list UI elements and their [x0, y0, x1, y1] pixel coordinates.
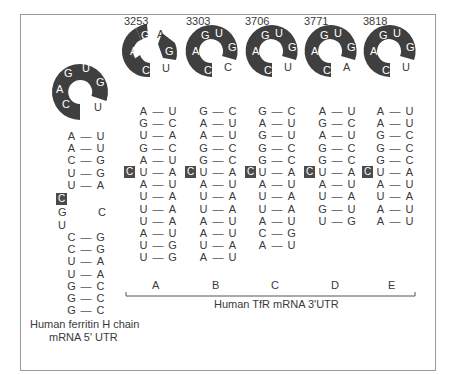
base-pair: U—A	[139, 190, 177, 202]
base-pair: C—G	[67, 243, 105, 255]
base-pair: U—A	[67, 255, 105, 267]
base-pair: A—U	[376, 203, 414, 215]
base-pair: U—A	[199, 190, 237, 202]
base-pair: A—U	[376, 215, 414, 227]
base-pair: A—U	[139, 105, 177, 117]
base-pair: A—U	[318, 129, 356, 141]
base-pair: A—U	[376, 117, 414, 129]
base-pair: A—U	[67, 130, 105, 142]
tfr-label-b: B	[212, 279, 219, 291]
base-pair: G—C	[199, 154, 237, 166]
base-pair: A—U	[258, 178, 296, 190]
base-pair: G—U	[318, 203, 356, 215]
tfr-a-loop-base: A	[130, 45, 137, 57]
loop-base: G	[228, 41, 237, 53]
tfr-a-bulge-c: C	[124, 166, 135, 178]
base-pair: G—C	[376, 154, 414, 166]
base-pair: C—G	[67, 154, 105, 166]
base-pair: U—A	[199, 166, 237, 178]
ferritin-loop-base: G	[64, 67, 73, 79]
base-pair: G—C	[318, 154, 356, 166]
ferritin-label-line1: Human ferritin H chain	[30, 318, 139, 330]
base-pair: G—C	[199, 142, 237, 154]
tfr-label-e: E	[388, 279, 395, 291]
base-pair: G—C	[67, 304, 105, 316]
base-pair: U—A	[139, 166, 177, 178]
base-pair: U—A	[67, 268, 105, 280]
tfr-a-loop-base: G	[165, 45, 174, 57]
ferritin-interior-right: C	[98, 206, 106, 218]
loop-base: A	[252, 45, 259, 57]
tfr-group-label: Human TfR mRNA 3'UTR	[214, 298, 339, 310]
base-pair: U—A	[318, 190, 356, 202]
base-pair: G—C	[67, 292, 105, 304]
loop-base: U	[275, 27, 283, 39]
base-pair: A—U	[318, 178, 356, 190]
base-pair: U—A	[258, 203, 296, 215]
base-pair: A—U	[199, 129, 237, 141]
loop-base: U	[215, 27, 223, 39]
tfr-c-bulge-c: C	[245, 166, 256, 178]
base-pair: U—A	[258, 166, 296, 178]
base-pair: G—C	[258, 142, 296, 154]
base-pair: U—A	[258, 190, 296, 202]
loop-outside-base: U	[402, 61, 410, 73]
base-pair: G—C	[376, 129, 414, 141]
base-pair: U—A	[376, 190, 414, 202]
loop-base: A	[192, 45, 199, 57]
ferritin-bulge-c: C	[56, 193, 67, 205]
tfr-b-position: 3303	[186, 15, 210, 27]
tfr-c-position: 3706	[245, 15, 269, 27]
tfr-c-stem: G—C A—U G—U G—C G—C U—A A—U U—A U—A A—U …	[258, 105, 296, 251]
ferritin-lower-stem: C—G C—G U—A U—A G—C G—C G—C	[67, 231, 105, 316]
base-pair: U—A	[139, 215, 177, 227]
loop-base: U	[334, 27, 342, 39]
ferritin-loop-base: G	[96, 76, 105, 88]
base-pair: A—U	[199, 227, 237, 239]
base-pair: G—U	[258, 129, 296, 141]
tfr-a-loop-base: C	[142, 64, 150, 76]
base-pair: A—U	[67, 142, 105, 154]
tfr-b-bulge-c: C	[185, 166, 196, 178]
tfr-a-stem: A—U G—C U—A G—C A—U U—A A—U U—A U—A U—A …	[139, 105, 177, 264]
ferritin-interior-left: G	[58, 206, 67, 218]
base-pair: A—U	[199, 251, 237, 263]
base-pair: G—C	[139, 117, 177, 129]
base-pair: G—C	[258, 154, 296, 166]
base-pair: A—U	[258, 215, 296, 227]
base-pair: A—U	[199, 215, 237, 227]
tfr-bracket	[126, 292, 415, 296]
base-pair: U—A	[376, 166, 414, 178]
base-pair: A—U	[376, 178, 414, 190]
tfr-e-stem: A—U A—U G—C G—C G—C U—A A—U U—A A—U A—U	[376, 105, 414, 227]
loop-base: G	[406, 41, 415, 53]
tfr-a-position: 3253	[124, 15, 148, 27]
base-pair: A—U	[139, 154, 177, 166]
loop-base: A	[311, 45, 318, 57]
loop-base: C	[264, 64, 272, 76]
loop-base: G	[201, 29, 210, 41]
ferritin-upper-stem: A—U A—U C—G U—G U—A	[67, 130, 105, 191]
ferritin-loop-outside-base: U	[94, 101, 102, 113]
loop-base: G	[379, 29, 388, 41]
base-pair: A—U	[139, 227, 177, 239]
base-pair: A—U	[258, 117, 296, 129]
base-pair: U—G	[139, 251, 177, 263]
loop-base: G	[288, 41, 297, 53]
loop-base: C	[204, 64, 212, 76]
loop-base: G	[347, 41, 356, 53]
base-pair: U—A	[67, 179, 105, 191]
base-pair: G—C	[258, 105, 296, 117]
ferritin-loop-base: A	[56, 83, 63, 95]
base-pair: U—A	[318, 166, 356, 178]
ferritin-interior-left: U	[58, 219, 66, 231]
tfr-label-c: C	[271, 279, 279, 291]
loop-base: G	[261, 29, 270, 41]
base-pair: G—C	[318, 117, 356, 129]
base-pair: G—C	[318, 142, 356, 154]
base-pair: G—C	[139, 142, 177, 154]
base-pair: G—C	[67, 280, 105, 292]
base-pair: A—U	[199, 178, 237, 190]
base-pair: U—A	[199, 203, 237, 215]
base-pair: G—C	[199, 105, 237, 117]
